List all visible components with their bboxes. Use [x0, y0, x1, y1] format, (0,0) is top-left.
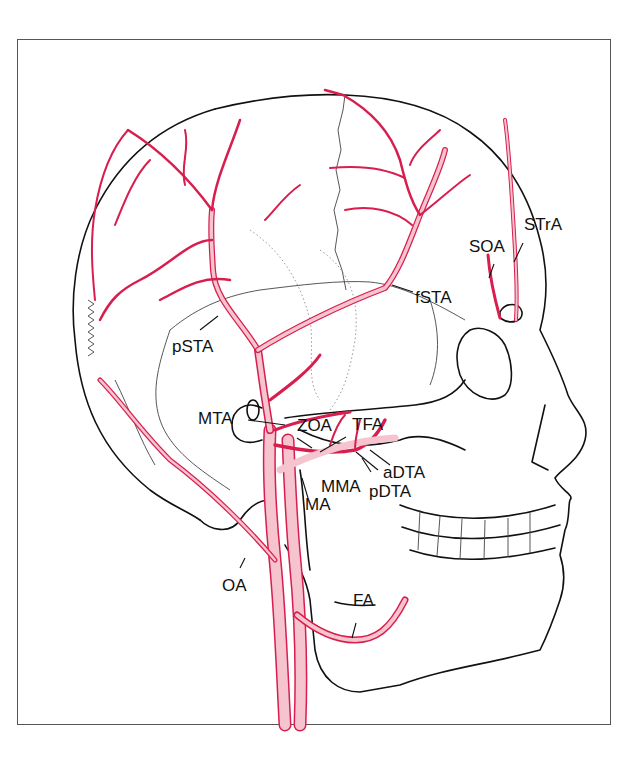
label-zoa: ZOA	[297, 416, 333, 435]
label-pdta: pDTA	[369, 482, 412, 501]
label-ma: MA	[305, 495, 331, 514]
label-oa: OA	[222, 576, 247, 595]
label-fa: FA	[353, 591, 374, 610]
label-mma: MMA	[321, 477, 361, 496]
label-stra: STrA	[524, 215, 563, 234]
label-mta: MTA	[198, 409, 233, 428]
arteries	[92, 90, 517, 725]
label-fsta: fSTA	[415, 288, 452, 307]
label-tfa: TFA	[352, 415, 384, 434]
label-soa: SOA	[469, 237, 506, 256]
label-adta: aDTA	[383, 463, 426, 482]
artery-labels: SOA STrA fSTA pSTA MTA ZOA TFA aDTA MMA …	[172, 215, 563, 610]
label-psta: pSTA	[172, 337, 214, 356]
skull-artery-diagram: SOA STrA fSTA pSTA MTA ZOA TFA aDTA MMA …	[0, 0, 620, 764]
